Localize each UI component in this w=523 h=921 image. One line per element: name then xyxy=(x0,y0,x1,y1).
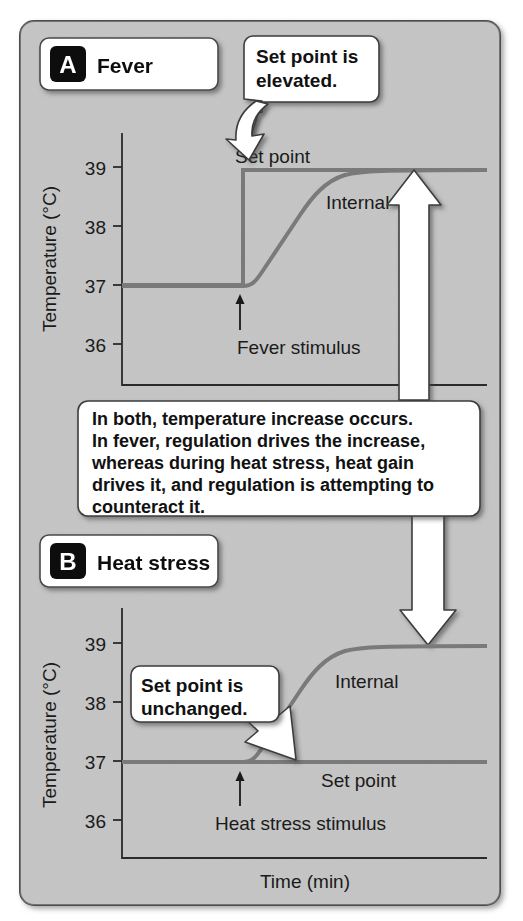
panel-b-ytick-38: 38 xyxy=(85,693,106,714)
panel-b-ytick-36: 36 xyxy=(85,811,106,832)
panel-a-badge-letter: A xyxy=(59,51,76,78)
panel-a-ytick-36: 36 xyxy=(85,335,106,356)
panel-b-ytick-39: 39 xyxy=(85,634,106,655)
comparison-callout-line-2: In fever, regulation drives the increase… xyxy=(92,431,425,451)
callout-b-line-1: Set point is xyxy=(141,675,243,696)
comparison-callout-line-5: counteract it. xyxy=(92,497,205,517)
panel-a-stimulus-label: Fever stimulus xyxy=(237,337,361,358)
comparison-callout-line-1: In both, temperature increase occurs. xyxy=(92,409,413,429)
panel-a-ylabel: Temperature (°C) xyxy=(39,186,60,332)
panel-b-stimulus-label: Heat stress stimulus xyxy=(215,813,386,834)
comparison-callout-line-3: whereas during heat stress, heat gain xyxy=(91,453,414,473)
panel-a-ytick-38: 38 xyxy=(85,217,106,238)
panel-b-ytick-37: 37 xyxy=(85,752,106,773)
panel-b-xlabel: Time (min) xyxy=(260,871,350,892)
panel-a-title-badge: A Fever xyxy=(40,38,218,90)
panel-b-internal-label: Internal xyxy=(335,671,398,692)
comparison-callout-line-4: drives it, and regulation is attempting … xyxy=(92,475,434,495)
figure-canvas: 39 38 37 36 Temperature (°C) Set point I… xyxy=(0,0,523,921)
panel-b-title-text: Heat stress xyxy=(97,551,210,574)
panel-a-title-text: Fever xyxy=(97,54,153,77)
callout-b-line-2: unchanged. xyxy=(141,698,248,719)
callout-a-line-2: elevated. xyxy=(256,70,337,91)
figure-root: 39 38 37 36 Temperature (°C) Set point I… xyxy=(0,0,523,921)
comparison-callout: In both, temperature increase occurs. In… xyxy=(78,401,480,517)
panel-a-ytick-37: 37 xyxy=(85,276,106,297)
panel-b-badge-letter: B xyxy=(59,548,76,575)
panel-a-internal-label: Internal xyxy=(326,192,389,213)
panel-b-ylabel: Temperature (°C) xyxy=(39,662,60,808)
callout-a-line-1: Set point is xyxy=(256,46,358,67)
panel-b-setpoint-label: Set point xyxy=(321,770,397,791)
panel-b-title-badge: B Heat stress xyxy=(40,535,218,587)
panel-a-ytick-39: 39 xyxy=(85,158,106,179)
